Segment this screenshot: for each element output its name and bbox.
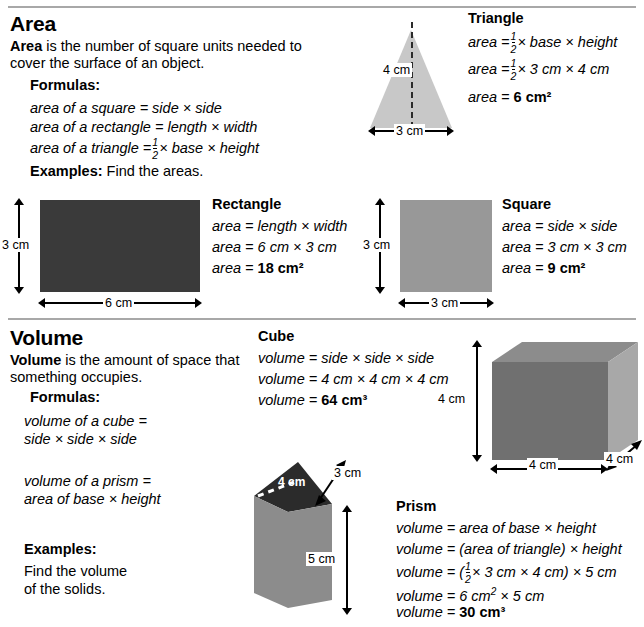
triangle-formula-2: area =12× 3 cm × 4 cm: [468, 58, 609, 82]
area-examples-text: Find the areas.: [103, 163, 204, 179]
triangle-base-label: 3 cm: [394, 124, 425, 138]
triangle-heading: Triangle: [468, 10, 524, 26]
volume-formula-prism-line2: area of base × height: [24, 490, 161, 509]
cube-depth-label: 4 cm: [604, 452, 635, 466]
volume-examples-label: Examples:: [24, 541, 97, 557]
volume-formula-prism-line1: volume of a prism =: [24, 472, 151, 491]
square-formula-3: area = 9 cm²: [502, 259, 585, 278]
prism-formula-2: volume = (area of triangle) × height: [396, 540, 622, 559]
prism-slant-label: 3 cm: [332, 466, 363, 480]
volume-definition-term: Volume: [10, 352, 61, 368]
area-formulas-label: Formulas:: [30, 77, 100, 93]
rectangle-shape: [40, 200, 200, 292]
area-formula-triangle: area of a triangle =12× base × height: [30, 137, 259, 161]
square-formula-1: area = side × side: [502, 217, 617, 236]
divider-top: [8, 6, 636, 8]
cube-formula-2: volume = 4 cm × 4 cm × 4 cm: [258, 370, 449, 389]
cube-heading: Cube: [258, 328, 294, 344]
rectangle-formula-1: area = length × width: [212, 217, 347, 236]
volume-examples-line2: of the solids.: [24, 581, 105, 598]
area-section-title: Area: [10, 12, 56, 36]
square-answer: 9 cm²: [548, 260, 586, 276]
rectangle-formula-2: area = 6 cm × 3 cm: [212, 238, 337, 257]
triangle-formula-3: area = 6 cm²: [468, 88, 551, 107]
square-formula-2: area = 3 cm × 3 cm: [502, 238, 627, 257]
cube-height-label: 4 cm: [436, 392, 467, 406]
cube-width-label: 4 cm: [527, 458, 558, 472]
one-half-fraction: 12: [152, 137, 158, 161]
worksheet-page: Area Area is the number of square units …: [0, 0, 644, 627]
square-heading: Square: [502, 196, 551, 212]
cube-formula-1: volume = side × side × side: [258, 349, 434, 368]
prism-height-arrow: [340, 505, 354, 615]
volume-formula-cube-line2: side × side × side: [24, 430, 137, 449]
area-formula-square: area of a square = side × side: [30, 99, 222, 118]
one-half-fraction: 12: [511, 31, 517, 55]
rectangle-heading: Rectangle: [212, 196, 281, 212]
area-formula-rectangle: area of a rectangle = length × width: [30, 118, 257, 137]
square-width-label: 3 cm: [429, 296, 460, 310]
rectangle-width-label: 6 cm: [103, 296, 134, 310]
area-definition-term: Area: [10, 38, 42, 54]
cube-formula-3: volume = 64 cm³: [258, 391, 367, 410]
prism-heading: Prism: [396, 498, 436, 514]
cube-answer: 64 cm³: [321, 392, 367, 408]
area-definition: Area is the number of square units neede…: [10, 38, 330, 72]
one-half-fraction: 12: [511, 58, 517, 82]
area-examples-line: Examples: Find the areas.: [30, 163, 203, 180]
area-definition-text: is the number of square units needed to …: [10, 38, 302, 71]
volume-definition: Volume is the amount of space that somet…: [10, 352, 250, 386]
volume-formula-cube-line1: volume of a cube =: [24, 412, 147, 431]
prism-base-label: 4 cm: [278, 475, 305, 489]
triangle-formula-1: area =12× base × height: [468, 31, 617, 55]
triangle-height-label: 4 cm: [381, 63, 412, 77]
rectangle-answer: 18 cm²: [258, 260, 304, 276]
triangle-answer: 6 cm²: [514, 89, 552, 105]
divider-middle: [8, 318, 636, 320]
prism-height-label: 5 cm: [306, 552, 337, 566]
area-examples-label: Examples:: [30, 163, 103, 179]
volume-section-title: Volume: [10, 326, 83, 350]
rectangle-height-label: 3 cm: [0, 238, 31, 252]
prism-answer: 30 cm³: [459, 604, 505, 620]
prism-formula-1: volume = area of base × height: [396, 519, 596, 538]
volume-examples-line1: Find the volume: [24, 563, 127, 580]
rectangle-formula-3: area = 18 cm²: [212, 259, 304, 278]
cube-height-arrow: [470, 340, 484, 462]
square-shape: [400, 200, 492, 292]
prism-formula-5: volume = 30 cm³: [396, 603, 505, 622]
volume-formulas-label: Formulas:: [30, 389, 100, 405]
square-height-label: 3 cm: [361, 238, 392, 252]
